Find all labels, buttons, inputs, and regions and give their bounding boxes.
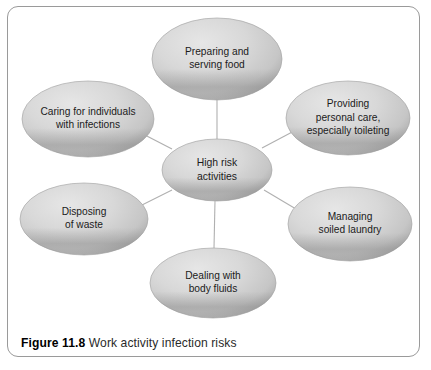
node-label-line: soiled laundry	[319, 224, 383, 235]
node-label-line: Preparing and	[185, 46, 249, 57]
node-caring-for-individuals-with-infections: Caring for individualswith infections	[22, 81, 154, 160]
caption-text: Work activity infection risks	[89, 336, 237, 350]
connector-center-to-managing-soiled-laundry	[264, 190, 296, 209]
node-label-line: High risk	[197, 157, 238, 168]
node-label-line: serving food	[189, 59, 245, 70]
node-label-line: Caring for individuals	[40, 106, 135, 117]
node-label-line: with infections	[55, 119, 120, 130]
node-label-line: Providing	[327, 98, 370, 109]
hub-and-spoke-diagram: Preparing andserving foodProvidingperson…	[0, 0, 431, 370]
node-managing-soiled-laundry: Managingsoiled laundry	[288, 187, 412, 264]
node-high-risk-activities: High riskactivities	[162, 139, 272, 204]
node-label-line: of waste	[65, 219, 103, 230]
nodes-layer: Preparing andserving foodProvidingperson…	[20, 18, 412, 321]
node-preparing-serving-food: Preparing andserving food	[152, 18, 282, 103]
caption-number: Figure 11.8	[21, 336, 85, 350]
node-label-line: especially toileting	[307, 125, 390, 136]
node-label-line: Disposing	[62, 206, 107, 217]
node-providing-personal-care: Providingpersonal care,especially toilet…	[286, 81, 410, 158]
figure-caption: Figure 11.8 Work activity infection risk…	[21, 336, 401, 354]
connector-center-to-disposing-of-waste	[140, 190, 172, 206]
node-label-line: personal care,	[316, 112, 381, 123]
node-label-line: Managing	[328, 211, 373, 222]
node-label-line: activities	[197, 171, 237, 182]
node-dealing-with-body-fluids: Dealing withbody fluids	[150, 248, 276, 321]
node-disposing-of-waste: Disposingof waste	[20, 183, 148, 258]
node-label-line: Dealing with	[185, 270, 241, 281]
node-label-line: body fluids	[189, 283, 238, 294]
figure-container: Preparing andserving foodProvidingperson…	[0, 0, 431, 370]
diagram-canvas: Preparing andserving foodProvidingperson…	[0, 0, 431, 370]
connector-center-to-dealing-with-body-fluids	[214, 201, 215, 248]
